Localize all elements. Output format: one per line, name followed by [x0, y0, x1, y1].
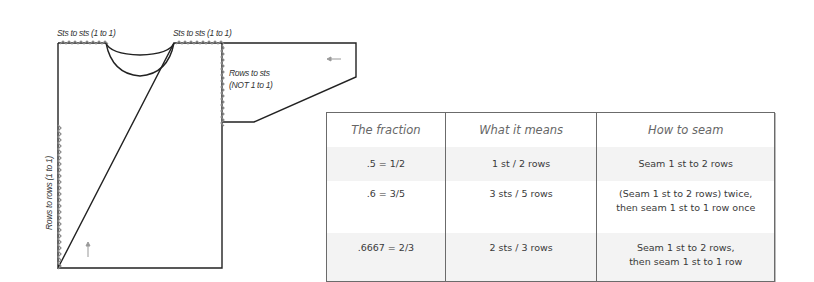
how-line: Seam 1 st to 2 rows, [637, 242, 735, 253]
header-meaning: What it means [445, 113, 597, 148]
body-direction-arrow-icon [86, 242, 90, 257]
sleeve-direction-arrow-icon [327, 57, 341, 61]
how-line: Seam 1 st to 2 rows [638, 158, 733, 169]
how-line: then seam 1 st to 1 row [629, 256, 742, 267]
cell-fraction: .6 = 3/5 [327, 181, 446, 233]
seaming-fraction-table: The fraction What it means How to seam .… [326, 112, 775, 282]
cell-meaning: 3 sts / 5 rows [445, 181, 597, 233]
header-how-to-seam: How to seam [597, 113, 775, 148]
cell-fraction: .6667 = 2/3 [327, 233, 446, 282]
cell-fraction: .5 = 1/2 [327, 147, 446, 181]
table-header-row: The fraction What it means How to seam [327, 113, 775, 148]
table-row: .6667 = 2/3 2 sts / 3 rows Seam 1 st to … [327, 233, 775, 282]
sweater-body-outline [58, 43, 222, 268]
how-line: then seam 1 st to 1 row once [616, 202, 755, 213]
cell-how-to-seam: (Seam 1 st to 2 rows) twice, then seam 1… [597, 181, 775, 233]
how-line: (Seam 1 st to 2 rows) twice, [619, 188, 752, 199]
table-row: .6 = 3/5 3 sts / 5 rows (Seam 1 st to 2 … [327, 181, 775, 233]
armhole-label-line1: Rows to sts [229, 68, 270, 78]
cell-how-to-seam: Seam 1 st to 2 rows, then seam 1 st to 1… [597, 233, 775, 282]
table-row: .5 = 1/2 1 st / 2 rows Seam 1 st to 2 ro… [327, 147, 775, 181]
seam-zigzag-marks [58, 41, 224, 269]
cell-how-to-seam: Seam 1 st to 2 rows [597, 147, 775, 181]
header-fraction: The fraction [327, 113, 446, 148]
shoulder-left-label: Sts to sts (1 to 1) [57, 28, 116, 38]
shoulder-right-label: Sts to sts (1 to 1) [173, 28, 232, 38]
cell-meaning: 2 sts / 3 rows [445, 233, 597, 282]
armhole-label-line2: (NOT 1 to 1) [229, 80, 273, 90]
cell-meaning: 1 st / 2 rows [445, 147, 597, 181]
side-seam-label: Rows to rows (1 to 1) [44, 156, 54, 230]
